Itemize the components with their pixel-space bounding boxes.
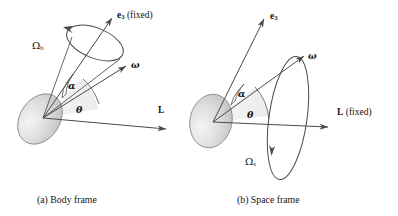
panel-b-graphics: [185, 19, 328, 182]
label-a-omega: ω: [131, 61, 140, 70]
label-b-L-suffix: (fixed): [343, 107, 371, 117]
caption-panel-b: (b) Space frame: [237, 194, 300, 205]
label-a-theta: θ: [76, 105, 82, 115]
label-b-e3: e3: [270, 12, 278, 22]
label-b-precession: Ωs: [245, 157, 256, 168]
label-a-e3: e3 (fixed): [117, 11, 153, 21]
label-b-omega: ω: [308, 52, 317, 61]
label-b-precession-sub: s: [253, 160, 256, 167]
label-a-L-main: L: [158, 105, 164, 115]
label-a-L: L: [158, 106, 164, 116]
label-a-alpha: α: [68, 81, 75, 91]
label-b-alpha: α: [238, 89, 245, 99]
label-a-precession-sub: b: [40, 44, 43, 51]
figure-container: e3 (fixed) ω L Ωb α θ (a) Body frame e3 …: [0, 0, 398, 216]
panel-a-graphics: [9, 18, 166, 153]
label-b-e3-sub: 3: [274, 14, 277, 21]
caption-panel-a: (a) Body frame: [37, 194, 97, 205]
label-b-theta: θ: [247, 110, 253, 120]
label-a-e3-suffix: (fixed): [125, 10, 153, 20]
label-b-L: L (fixed): [337, 108, 372, 118]
panel-b-rigid-body: [185, 90, 237, 152]
label-a-precession: Ωb: [32, 41, 44, 52]
panel-a-vector-L: [43, 118, 166, 129]
